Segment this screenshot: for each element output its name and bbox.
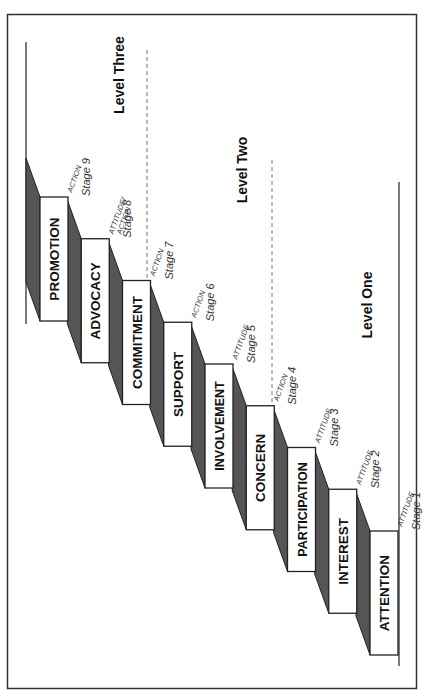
stair-diagram: ATTENTIONATTITUDEStage 1INTERESTATTITUDE… [0,0,426,697]
step-side-face [67,200,81,363]
stage-label: Stage 8 [121,199,133,238]
step-label: COMMITMENT [130,295,145,389]
step-label: INTEREST [336,517,351,585]
level-label-2: Level Two [234,137,250,204]
step-side-face [232,367,246,530]
stage-label: Stage 9 [80,158,92,196]
stage-label: Stage 3 [328,408,340,447]
step-label: PARTICIPATION [296,462,310,556]
step-label: CONCERN [253,434,268,502]
step-label: ADVOCACY [88,262,103,339]
step-side-face [315,450,329,613]
stage-label: Stage 5 [245,324,257,363]
stage-label: Stage 7 [163,241,175,280]
level-label-3: Level Three [111,36,127,114]
step-label: PROMOTION [47,217,62,300]
step-label: INVOLVEMENT [213,381,227,471]
step-label: ATTENTION [377,555,392,631]
step-side-face [274,409,288,572]
step-side-face [26,158,40,321]
stage-label: Stage 2 [369,450,381,488]
stage-label: Stage 1 [410,492,422,530]
steps-group: ATTENTIONATTITUDEStage 1INTERESTATTITUDE… [26,158,422,655]
stage-label: Stage 6 [204,282,216,321]
stage-label: Stage 4 [286,367,298,405]
step-label: SUPPORT [171,351,186,417]
step-side-face [109,242,123,405]
step-1: ATTENTIONATTITUDEStage 1 [356,490,422,655]
step-side-face [191,325,205,488]
step-side-face [356,492,370,655]
level-label-1: Level One [359,271,375,338]
step-side-face [150,283,164,446]
